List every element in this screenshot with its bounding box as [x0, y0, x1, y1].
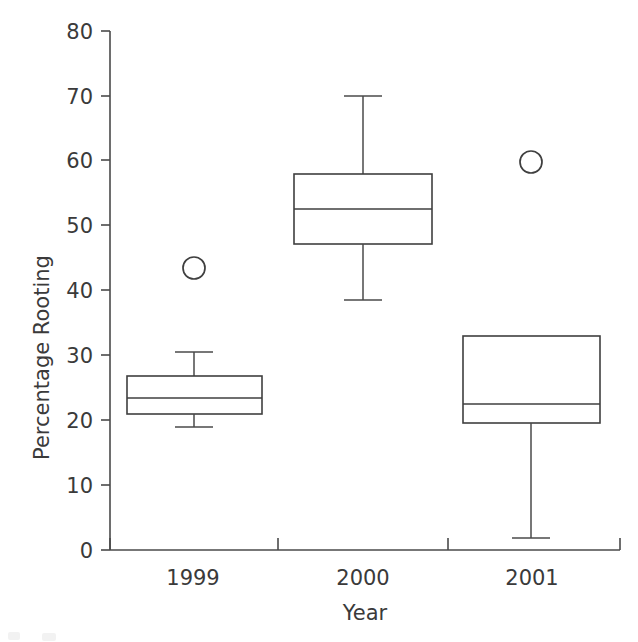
x-tick-label-2000: 2000 [336, 566, 389, 590]
outlier-point-1999 [183, 257, 205, 279]
y-tick-label-60: 60 [66, 149, 93, 173]
y-tick-label-30: 30 [66, 344, 93, 368]
y-tick-label-70: 70 [66, 85, 93, 109]
outlier-point-2001 [520, 151, 542, 173]
x-axis: 1999 2000 2001 Year [110, 538, 620, 625]
x-tick-label-1999: 1999 [166, 566, 219, 590]
y-tick-label-50: 50 [66, 214, 93, 238]
caption-fragment-1 [8, 632, 20, 640]
box-2001 [463, 336, 600, 423]
y-tick-label-0: 0 [80, 539, 93, 563]
x-axis-category-dividers [110, 538, 620, 550]
x-axis-tick-labels: 1999 2000 2001 [166, 566, 558, 590]
x-tick-label-2001: 2001 [505, 566, 558, 590]
boxplot-chart: 80 70 60 50 40 30 20 10 0 1999 2000 2001… [0, 0, 638, 642]
box-1999 [127, 376, 262, 414]
caption-fragment-2 [42, 633, 56, 641]
y-tick-label-10: 10 [66, 474, 93, 498]
y-tick-label-40: 40 [66, 279, 93, 303]
y-axis: 80 70 60 50 40 30 20 10 0 [66, 20, 110, 563]
y-tick-label-20: 20 [66, 409, 93, 433]
box-plot-2000 [294, 96, 432, 300]
y-axis-ticks [101, 31, 110, 550]
box-plot-2001 [463, 151, 600, 538]
y-axis-tick-labels: 80 70 60 50 40 30 20 10 0 [66, 20, 93, 563]
x-axis-title: Year [342, 601, 388, 625]
box-plot-1999 [127, 257, 262, 427]
y-tick-label-80: 80 [66, 20, 93, 44]
